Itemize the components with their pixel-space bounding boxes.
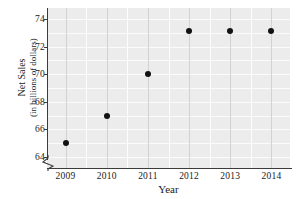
gridline-vertical-major [107, 8, 108, 168]
y-tick-mark [44, 102, 47, 103]
x-axis-line [47, 168, 292, 169]
plot-area [47, 8, 290, 168]
y-axis-title-line1: Net Sales [16, 0, 28, 158]
y-tick-mark [44, 19, 47, 20]
y-tick-mark [44, 157, 47, 158]
gridline-vertical-minor [86, 8, 87, 168]
gridline-vertical-minor [210, 8, 211, 168]
scatter-chart: 64 66 68 70 72 74 2009 2010 2011 2012 20… [0, 0, 304, 199]
data-point [104, 113, 110, 119]
y-axis-line [47, 8, 48, 160]
x-tick-label: 2011 [126, 171, 170, 182]
x-tick-label: 2013 [208, 171, 252, 182]
data-point [145, 71, 151, 77]
gridline-vertical-minor [127, 8, 128, 168]
x-tick-label: 2010 [85, 171, 129, 182]
y-tick-mark [44, 129, 47, 130]
x-tick-label: 2009 [44, 171, 88, 182]
x-tick-label: 2014 [249, 171, 293, 182]
data-point [63, 140, 69, 146]
gridline-vertical-minor [169, 8, 170, 168]
gridline-vertical-major [148, 8, 149, 168]
x-tick-label: 2012 [167, 171, 211, 182]
x-axis-title: Year [47, 183, 290, 196]
y-axis-title-line2: (in billions of dollars) [27, 0, 39, 158]
gridline-vertical-minor [251, 8, 252, 168]
y-tick-mark [44, 47, 47, 48]
y-tick-mark [44, 74, 47, 75]
y-axis-title: Net Sales (in billions of dollars) [16, 0, 39, 158]
